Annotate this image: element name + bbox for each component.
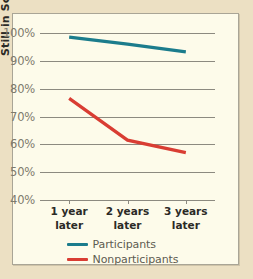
y-tick-label-90: 90% bbox=[10, 54, 35, 68]
chart-legend: Participants Nonparticipants bbox=[13, 238, 238, 266]
legend-label-nonparticipants: Nonparticipants bbox=[93, 253, 179, 266]
legend-swatch-participants bbox=[67, 243, 88, 246]
legend-swatch-nonparticipants bbox=[67, 258, 88, 261]
plot-area: 100%90%80%70%60%50%40% bbox=[40, 33, 215, 200]
legend-label-participants: Participants bbox=[93, 238, 156, 251]
y-tick-label-100: 100% bbox=[3, 26, 35, 40]
y-tick-label-50: 50% bbox=[10, 165, 35, 179]
y-tick-label-80: 80% bbox=[10, 82, 35, 96]
x-tick-label-1: 1 yearlater bbox=[51, 204, 88, 232]
legend-item-nonparticipants: Nonparticipants bbox=[67, 253, 185, 266]
series-line-participants bbox=[69, 37, 186, 52]
y-tick-label-70: 70% bbox=[10, 110, 35, 124]
y-tick-label-60: 60% bbox=[10, 137, 35, 151]
chart-panel: Still in School 100%90%80%70%60%50%40% 1… bbox=[12, 13, 239, 265]
x-tick-label-2: 2 yearslater bbox=[106, 204, 149, 232]
series-lines bbox=[40, 33, 215, 200]
x-tick-labels-group: 1 yearlater2 yearslater3 yearslater bbox=[40, 204, 215, 238]
series-line-nonparticipants bbox=[69, 98, 186, 152]
y-tick-label-40: 40% bbox=[10, 193, 35, 207]
x-tick-label-3: 3 yearslater bbox=[164, 204, 207, 232]
legend-item-participants: Participants bbox=[67, 238, 185, 251]
